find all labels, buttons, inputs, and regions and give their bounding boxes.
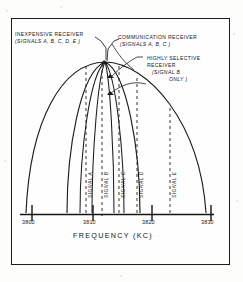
selectivity-curve-figure: INEXPENSIVE RECEIVER (SIGNALS A, B, C, D…: [0, 0, 243, 282]
callout-inexpensive-line1: INEXPENSIVE RECEIVER: [15, 31, 83, 37]
paper-speck: [236, 200, 238, 202]
callout-communication-line1: COMMUNICATION RECEIVER: [118, 34, 197, 40]
axis-tick-label-3800: 3800: [22, 219, 35, 225]
signal-label-d: SIGNAL D: [139, 171, 144, 198]
leader-inexpensive-hook: [95, 37, 101, 41]
signal-label-c: SIGNAL C: [121, 171, 126, 198]
paper-speck: [120, 275, 122, 277]
leader-communication: [107, 41, 114, 61]
axis-tick-label-3810: 3810: [83, 219, 96, 225]
callout-inexpensive-line2: (SIGNALS A, B, C, D, E ): [15, 38, 80, 44]
callout-selective-line1: HIGHLY SELECTIVE: [147, 55, 201, 61]
signal-label-a: SIGNAL A: [88, 172, 93, 198]
signal-label-b: SIGNAL B: [104, 172, 109, 198]
leader-selective-lower: [111, 83, 146, 93]
axis-tick-label-3830: 3830: [201, 219, 214, 225]
paper-speck: [6, 10, 8, 12]
callout-communication-line2: (SIGNALS A, B, C ): [120, 41, 171, 47]
curve-inexpensive-receiver: [26, 62, 206, 213]
callout-selective-line4: ONLY ): [169, 76, 188, 82]
axis-title: FREQUENCY (KC): [73, 231, 153, 240]
paper-speck: [233, 33, 235, 35]
paper-speck: [60, 6, 62, 8]
axis-tick-label-3820: 3820: [142, 219, 155, 225]
callout-selective-line3: (SIGNAL B: [152, 69, 180, 75]
paper-speck: [4, 160, 6, 162]
signal-label-e: SIGNAL E: [172, 172, 177, 198]
leader-inexpensive: [101, 41, 106, 60]
callout-selective-line2: RECEIVER: [147, 62, 176, 68]
